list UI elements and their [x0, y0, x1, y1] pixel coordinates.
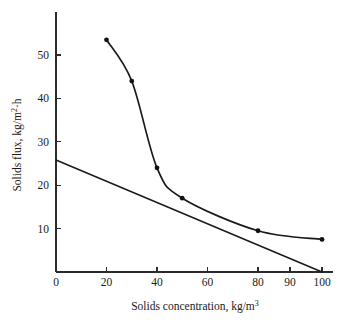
data-point-marker	[155, 165, 160, 170]
x-tick-label: 90	[284, 276, 296, 288]
y-tick-label: 50	[38, 49, 50, 61]
data-point-marker	[180, 196, 185, 201]
x-tick-label: 40	[151, 276, 163, 288]
x-tick-label: 80	[252, 276, 264, 288]
y-tick-label: 10	[38, 223, 50, 235]
data-point-marker	[256, 228, 261, 233]
x-tick-label: 60	[202, 276, 214, 288]
x-tick-label: 20	[101, 276, 113, 288]
y-axis-title: Solids flux, kg/m2·h	[10, 98, 24, 191]
solids-flux-chart: 02040608090100 1020304050 Solids concent…	[0, 0, 346, 327]
data-point-marker	[320, 237, 325, 242]
y-tick-label: 40	[38, 92, 50, 104]
x-tick-label: 0	[53, 276, 59, 288]
chart-figure: 02040608090100 1020304050 Solids concent…	[0, 0, 346, 327]
data-point-marker	[129, 79, 134, 84]
y-tick-label: 30	[38, 136, 50, 148]
y-axis-title-group: Solids flux, kg/m2·h	[10, 98, 24, 191]
x-tick-label: 100	[313, 276, 331, 288]
data-point-marker	[104, 37, 109, 42]
y-tick-label: 20	[38, 179, 50, 191]
x-axis-title: Solids concentration, kg/m3	[131, 299, 259, 313]
